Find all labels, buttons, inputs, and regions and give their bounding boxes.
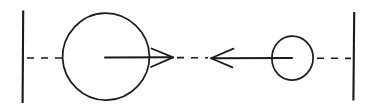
left-wall bbox=[23, 11, 24, 104]
figure-canvas bbox=[0, 0, 378, 112]
background bbox=[0, 0, 378, 112]
right-wall bbox=[353, 12, 354, 101]
diagram-svg bbox=[0, 0, 378, 112]
